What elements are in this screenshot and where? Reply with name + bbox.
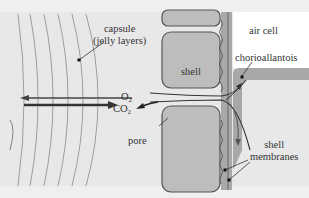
capsule-label: capsule (jelly layers) [93, 23, 146, 47]
co2-label-subscript: 2 [128, 108, 132, 116]
egg-gas-exchange-diagram: capsule (jelly layers) shell air cell ch… [0, 0, 309, 198]
shell-label: shell [181, 66, 201, 78]
o2-label-base: O [121, 91, 129, 102]
shell-membranes-label-line2: membranes [250, 151, 298, 163]
co2-label-base: CO [113, 103, 128, 114]
shell-membranes-label-line1: shell [250, 139, 298, 151]
shell-membranes-label: shell membranes [250, 139, 298, 163]
air-cell-label: air cell [249, 25, 278, 37]
co2-label: CO2 [113, 103, 131, 118]
capsule-label-line1: capsule [93, 23, 146, 35]
shell-bottom-block [162, 106, 220, 192]
pore-label: pore [128, 135, 147, 147]
chorioallantois-label: chorioallantois [235, 52, 297, 64]
capsule-label-line2: (jelly layers) [93, 35, 146, 47]
